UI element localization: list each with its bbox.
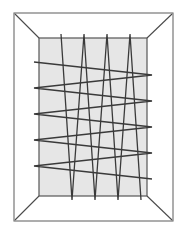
figure-container bbox=[0, 0, 181, 236]
corner-link-bottom-left bbox=[15, 196, 39, 220]
zigzag-coverage-diagram bbox=[0, 0, 181, 236]
corner-link-top-left bbox=[15, 14, 39, 38]
corner-link-top-right bbox=[147, 14, 172, 38]
corner-link-bottom-right bbox=[147, 196, 172, 220]
